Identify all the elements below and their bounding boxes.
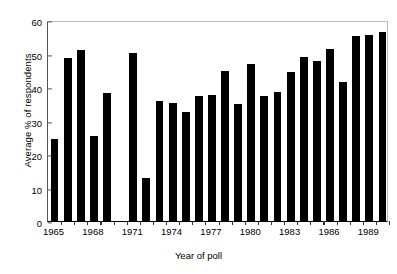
x-tick-mark	[271, 221, 272, 225]
bar	[51, 139, 59, 221]
bar	[195, 96, 203, 221]
bar	[90, 136, 98, 221]
x-tick-mark	[114, 221, 115, 225]
bar	[129, 53, 137, 221]
x-tick-mark	[179, 221, 180, 225]
x-tick-mark	[192, 221, 193, 225]
y-tick-label: 50	[31, 50, 48, 61]
bar-chart: Average % of respondents 0102030405060 1…	[0, 0, 397, 274]
x-tick-mark	[245, 221, 246, 225]
bar	[169, 103, 177, 221]
bar	[234, 104, 242, 221]
x-tick-label: 1980	[240, 226, 261, 237]
x-tick-label: 1983	[279, 226, 300, 237]
x-tick-mark	[140, 221, 141, 225]
x-tick-mark	[350, 221, 351, 225]
bar	[103, 93, 111, 221]
x-tick-mark	[284, 221, 285, 225]
bar	[339, 82, 347, 221]
x-tick-mark	[376, 221, 377, 225]
x-tick-mark	[389, 221, 390, 225]
bar	[182, 112, 190, 221]
bar	[156, 101, 164, 221]
x-tick-label: 1986	[318, 226, 339, 237]
x-tick-mark	[232, 221, 233, 225]
bar	[326, 49, 334, 221]
bar	[379, 32, 387, 221]
bar	[352, 36, 360, 221]
x-tick-mark	[205, 221, 206, 225]
x-tick-mark	[337, 221, 338, 225]
x-tick-mark	[74, 221, 75, 225]
bar	[64, 58, 72, 221]
bar	[77, 50, 85, 221]
x-tick-mark	[323, 221, 324, 225]
x-axis-title: Year of poll	[0, 250, 397, 261]
x-tick-label: 1965	[43, 226, 64, 237]
bar	[247, 64, 255, 221]
x-tick-label: 1968	[82, 226, 103, 237]
x-tick-mark	[61, 221, 62, 225]
y-tick-mark	[48, 55, 52, 56]
y-tick-label: 40	[31, 84, 48, 95]
bar	[208, 95, 216, 221]
x-tick-mark	[153, 221, 154, 225]
bar	[142, 178, 150, 221]
x-tick-mark	[363, 221, 364, 225]
y-tick-mark	[48, 88, 52, 89]
y-tick-mark	[48, 122, 52, 123]
y-tick-label: 10	[31, 184, 48, 195]
x-tick-mark	[219, 221, 220, 225]
x-tick-label: 1977	[200, 226, 221, 237]
y-tick-label: 20	[31, 151, 48, 162]
bar	[313, 61, 321, 221]
x-tick-mark	[127, 221, 128, 225]
bar	[300, 57, 308, 221]
bar	[365, 35, 373, 221]
plot-area: 0102030405060	[47, 21, 388, 222]
x-tick-mark	[87, 221, 88, 225]
x-tick-mark	[100, 221, 101, 225]
bar	[287, 72, 295, 221]
x-tick-mark	[297, 221, 298, 225]
bar	[260, 96, 268, 221]
x-tick-mark	[310, 221, 311, 225]
y-tick-mark	[48, 21, 52, 22]
bar	[274, 92, 282, 221]
y-tick-label: 60	[31, 17, 48, 28]
x-tick-label: 1971	[122, 226, 143, 237]
y-tick-mark	[48, 222, 52, 223]
x-tick-label: 1974	[161, 226, 182, 237]
x-tick-label: 1989	[358, 226, 379, 237]
y-tick-label: 30	[31, 117, 48, 128]
x-tick-mark	[166, 221, 167, 225]
x-tick-mark	[258, 221, 259, 225]
bar	[221, 71, 229, 221]
